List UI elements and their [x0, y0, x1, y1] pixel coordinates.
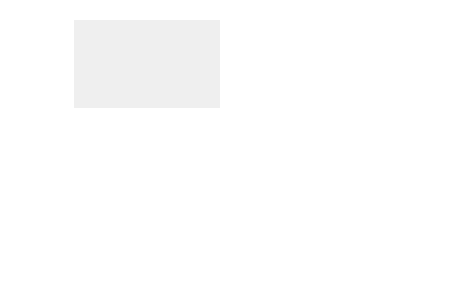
diagram-canvas: [0, 0, 467, 288]
